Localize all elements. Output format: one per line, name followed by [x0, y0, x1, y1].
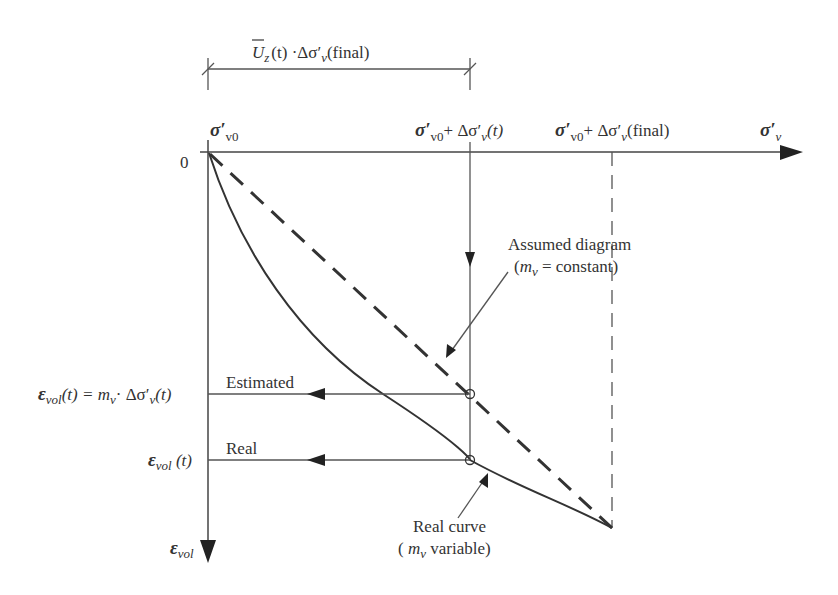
estimated-label: Estimated [226, 373, 294, 392]
tick-label-sigma-t: σ′v0+ Δσ′v(t) [415, 119, 503, 144]
y-axis-arrowhead-icon [200, 540, 216, 563]
origin-zero-label: 0 [180, 153, 189, 172]
y-axis-label: εvol [170, 537, 194, 561]
assumed-line [210, 154, 612, 528]
assumed-pointer [452, 272, 508, 350]
x-axis-arrowhead-icon [780, 145, 803, 160]
assumed-diagram-sublabel: (mv = constant) [514, 257, 618, 279]
real-label: Real [226, 439, 257, 458]
tick-label-sigma-final: σ′v0+ Δσ′v(final) [555, 119, 670, 144]
real-curve-sublabel: ( mv variable) [398, 539, 491, 561]
stress-at-t-arrowhead-icon [465, 252, 475, 267]
y-label-real: εvol (t) [148, 449, 192, 473]
real-curve-pointer [458, 480, 484, 518]
real-curve [209, 153, 612, 528]
real-arrowhead-icon [307, 454, 325, 466]
consolidation-strain-diagram: Uz(t) ·Δσ′v(final) 0 σ′v0 σ′v0+ Δσ′v(t) … [0, 0, 838, 595]
real-curve-label: Real curve [413, 517, 486, 536]
dimension-label: Uz(t) ·Δσ′v(final) [252, 43, 369, 65]
dimension-line [202, 58, 476, 90]
estimated-arrowhead-icon [307, 388, 325, 400]
tick-label-sigma-v0: σ′v0 [210, 119, 239, 144]
assumed-diagram-label: Assumed diagram [508, 235, 631, 254]
y-label-estimated: εvol(t) = mv· Δσ′v(t) [38, 383, 172, 407]
x-axis-label: σ′v [760, 119, 782, 144]
